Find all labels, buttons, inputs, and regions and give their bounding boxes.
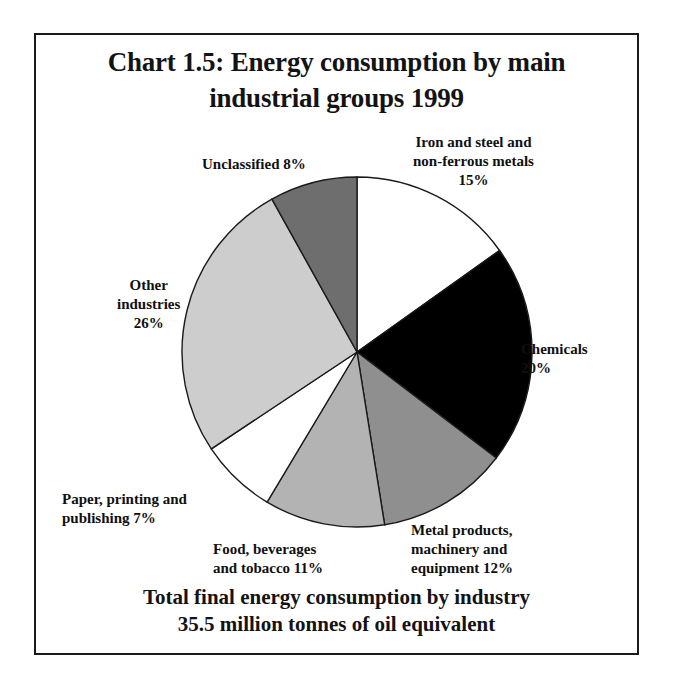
pie-label-metal-line-2: machinery and: [411, 540, 513, 559]
chart-title-line-1: Chart 1.5: Energy consumption by main: [36, 45, 637, 81]
pie-label-other-line-2: industries: [117, 295, 180, 314]
pie-label-paper-line-2: publishing 7%: [62, 509, 187, 528]
pie-label-chemicals-value: 20%: [521, 359, 588, 378]
page-title: Chart 1.5: Energy consumption by main in…: [36, 45, 637, 117]
pie-label-iron-value: 15%: [413, 171, 534, 190]
pie-label-iron-line-2: non-ferrous metals: [413, 152, 534, 171]
pie-label-unclassified: Unclassified 8%: [202, 155, 306, 174]
chart-title-line-2: industrial groups 1999: [36, 81, 637, 117]
pie-label-other-industries: Other industries 26%: [117, 276, 180, 334]
pie-label-metal-line-3: equipment 12%: [411, 559, 513, 578]
pie-label-iron-and-steel: Iron and steel and non-ferrous metals 15…: [413, 133, 534, 191]
pie-label-metal-products: Metal products, machinery and equipment …: [411, 521, 513, 579]
pie-label-metal-line-1: Metal products,: [411, 521, 513, 540]
chart-footer-line-1: Total final energy consumption by indust…: [36, 584, 637, 612]
pie-label-chemicals: Chemicals 20%: [521, 340, 588, 378]
pie-label-food-beverages: Food, beverages and tobacco 11%: [213, 540, 323, 578]
pie-label-food-line-2: and tobacco 11%: [213, 559, 323, 578]
pie-label-paper-line-1: Paper, printing and: [62, 490, 187, 509]
chart-footer: Total final energy consumption by indust…: [36, 584, 637, 639]
pie-label-unclassified-text: Unclassified 8%: [202, 155, 306, 174]
pie-label-other-line-1: Other: [117, 276, 180, 295]
chart-footer-line-2: 35.5 million tonnes of oil equivalent: [36, 611, 637, 639]
pie-label-chemicals-name: Chemicals: [521, 340, 588, 359]
pie-label-paper-printing: Paper, printing and publishing 7%: [62, 490, 187, 528]
pie-label-food-line-1: Food, beverages: [213, 540, 323, 559]
pie-label-other-value: 26%: [117, 314, 180, 333]
pie-label-iron-line-1: Iron and steel and: [413, 133, 534, 152]
